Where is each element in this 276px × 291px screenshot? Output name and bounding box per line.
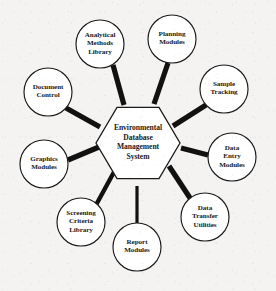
node-analytical-methods-library[interactable] [76, 20, 124, 68]
node-planning-modules[interactable] [148, 15, 196, 63]
node-screening-criteria-library[interactable] [57, 198, 105, 246]
environmental-database-diagram: Environmental Database Management System… [0, 0, 276, 291]
diagram-canvas [0, 0, 276, 291]
spoke-document-control [66, 108, 100, 127]
spoke-screening-criteria-library [96, 172, 114, 205]
node-data-entry-modules[interactable] [208, 133, 256, 181]
node-report-modules[interactable] [113, 223, 161, 271]
spoke-analytical-methods-library [113, 65, 124, 105]
spoke-planning-modules [154, 63, 168, 104]
node-graphics-modules[interactable] [20, 140, 68, 188]
spoke-graphics-modules [68, 147, 99, 160]
node-layer [20, 15, 256, 271]
node-document-control[interactable] [24, 68, 72, 116]
spoke-data-transfer-utilities [169, 166, 190, 198]
node-sample-tracking[interactable] [200, 65, 248, 113]
spoke-sample-tracking [173, 105, 206, 126]
node-data-transfer-utilities[interactable] [181, 193, 229, 241]
spoke-data-entry-modules [181, 148, 208, 155]
